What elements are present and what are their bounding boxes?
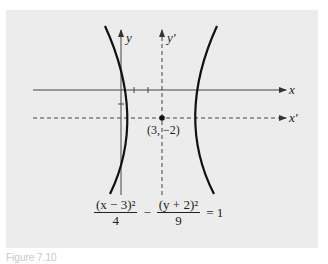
x-prime-axis-label: x′ xyxy=(288,110,298,125)
y-axis-label: y xyxy=(124,30,132,45)
hyperbola-equation: (x − 3)² 4 − (y + 2)² 9 = 1 xyxy=(94,198,229,228)
x-axis-label: x xyxy=(288,82,295,97)
center-label: (3, −2) xyxy=(147,123,180,137)
y-prime-axis-label: y′ xyxy=(165,30,176,45)
figure-caption: Figure 7.10 xyxy=(6,252,57,263)
term2-fraction: (y + 2)² 9 xyxy=(157,198,200,228)
hyperbola-right-branch xyxy=(195,26,217,194)
term1-numerator: (x − 3)² xyxy=(94,198,137,213)
term2-numerator: (y + 2)² xyxy=(157,198,200,213)
equation-rhs: = 1 xyxy=(206,205,223,221)
term1-fraction: (x − 3)² 4 xyxy=(94,198,137,228)
term1-denominator: 4 xyxy=(112,213,119,228)
hyperbola-left-branch xyxy=(105,26,127,194)
center-point xyxy=(159,115,165,121)
minus-operator: − xyxy=(143,205,150,221)
term2-denominator: 9 xyxy=(175,213,182,228)
